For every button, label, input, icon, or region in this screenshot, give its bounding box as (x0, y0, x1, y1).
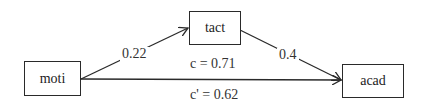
mediation-diagram: 0.22 0.4 c = 0.71 c' = 0.62 moti tact ac… (0, 0, 426, 109)
edge-label-a: 0.22 (120, 47, 149, 61)
node-moti-label: moti (40, 71, 66, 87)
edge-label-b: 0.4 (277, 48, 299, 62)
edge-label-c-total: c = 0.71 (188, 57, 238, 71)
node-tact: tact (189, 11, 241, 45)
edge-label-c-direct: c' = 0.62 (188, 88, 240, 102)
edge-moti-acad (81, 79, 341, 80)
node-acad-label: acad (360, 73, 386, 89)
node-tact-label: tact (205, 20, 225, 36)
node-acad: acad (342, 64, 404, 98)
node-moti: moti (24, 61, 81, 96)
